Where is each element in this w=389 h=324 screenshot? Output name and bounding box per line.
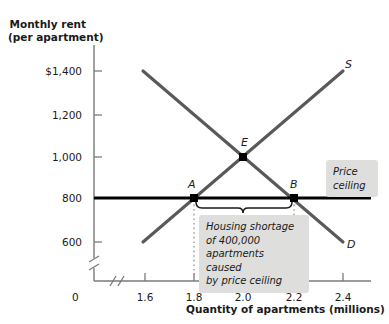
point-label-A: A <box>188 178 196 191</box>
demand-curve-label: D <box>347 238 355 251</box>
point-marker-A <box>190 194 198 202</box>
point-label-B: B <box>290 178 298 191</box>
housing-shortage-annotation-line1: Housing shortage <box>206 220 302 234</box>
price-ceiling-annotation-line2: ceiling <box>333 179 371 193</box>
shortage-brace <box>196 202 292 213</box>
price-ceiling-annotation-line1: Price <box>333 165 371 179</box>
housing-shortage-annotation: Housing shortage of 400,000 apartments c… <box>199 215 309 293</box>
point-label-E: E <box>241 136 248 149</box>
housing-shortage-annotation-line2: of 400,000 <box>206 234 302 248</box>
price-ceiling-annotation: Price ceiling <box>326 160 378 197</box>
housing-shortage-annotation-line3: apartments caused <box>206 247 302 274</box>
chart-container: Monthly rent (per apartment) Quantity of… <box>0 0 389 324</box>
y-axis-break-icon <box>89 256 99 270</box>
housing-shortage-annotation-line4: by price ceiling <box>206 274 302 288</box>
point-marker-E <box>239 153 247 161</box>
point-marker-B <box>290 194 298 202</box>
supply-curve-label: S <box>345 58 352 71</box>
